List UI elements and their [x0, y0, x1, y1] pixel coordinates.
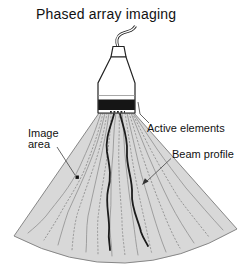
active-elements-label: Active elements	[147, 122, 225, 134]
active-elements-band	[98, 100, 135, 111]
phased-array-imaging-figure: Phased array imaging	[0, 0, 251, 273]
transducer-probe	[98, 26, 136, 113]
beam-profile-label: Beam profile	[172, 148, 234, 160]
image-area-marker-dot	[76, 176, 79, 179]
figure-canvas: Phased array imaging	[0, 0, 251, 273]
cable-icon	[117, 26, 136, 47]
image-area-label-line2: area	[28, 138, 51, 150]
figure-title: Phased array imaging	[36, 6, 176, 22]
transducer-connector	[111, 47, 126, 58]
